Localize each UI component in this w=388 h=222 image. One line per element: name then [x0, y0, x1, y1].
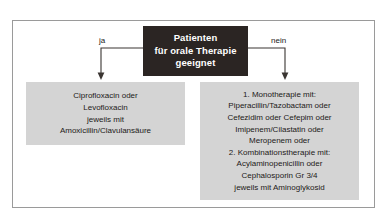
outcome-right-line-8: Cephalosporin Gr 3/4 [241, 170, 317, 182]
edge-label-nein: nein [271, 36, 286, 45]
outcome-box-nein: 1. Monotherapie mit: Piperacillin/Tazoba… [200, 82, 359, 200]
outcome-right-line-4: Imipenem/Cilastatin oder [235, 124, 323, 136]
outcome-left-line-4: Amoxicillin/Clavulansäure [60, 125, 151, 137]
outcome-right-line-6: 2. Kombinationstherapie mit: [229, 147, 330, 159]
edge-label-ja: ja [99, 36, 105, 45]
outcome-right-line-9: jeweils mit Aminoglykosid [234, 182, 324, 194]
outcome-left-line-2: Levofloxacin [83, 102, 127, 114]
outcome-box-ja: Ciprofloxacin oder Levofloxacin jeweils … [26, 82, 185, 145]
root-box-line-1: Patienten [174, 32, 218, 45]
root-decision-box: Patienten für orale Therapie geeignet [143, 26, 248, 76]
outcome-right-line-5: Meropenem oder [249, 135, 310, 147]
flowchart-diagram: Patienten für orale Therapie geeignet ja… [0, 0, 388, 222]
outcome-left-line-3: jeweils mit [87, 114, 124, 126]
root-box-line-2: für orale Therapie [154, 45, 236, 58]
outcome-right-line-3: Cefezidim oder Cefepim oder [227, 112, 331, 124]
outcome-right-line-1: 1. Monotherapie mit: [243, 89, 316, 101]
outcome-right-line-7: Acylaminopenicillin oder [237, 158, 323, 170]
outcome-right-line-2: Piperacillin/Tazobactam oder [228, 100, 330, 112]
outcome-left-line-1: Ciprofloxacin oder [73, 90, 137, 102]
root-box-line-3: geeignet [176, 57, 216, 70]
